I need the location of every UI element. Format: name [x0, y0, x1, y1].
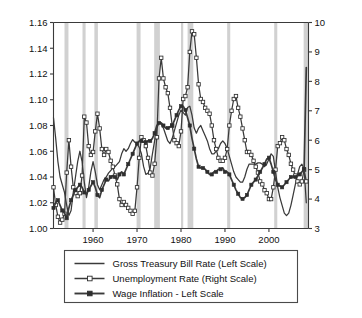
- data-point-marker: [179, 105, 182, 108]
- data-point-marker: [245, 193, 248, 196]
- data-point-marker: [206, 170, 209, 173]
- data-point-marker: [135, 186, 138, 189]
- data-point-marker: [69, 199, 72, 202]
- data-point-marker: [228, 124, 231, 127]
- data-point-marker: [78, 183, 81, 186]
- data-point-marker: [291, 168, 294, 171]
- data-point-marker: [65, 217, 68, 220]
- data-point-marker: [149, 139, 152, 142]
- data-point-marker: [175, 114, 178, 117]
- x-axis-tick-label: 2000: [258, 234, 279, 245]
- data-point-marker: [278, 141, 281, 144]
- data-point-marker: [96, 112, 99, 115]
- data-point-marker: [214, 147, 217, 150]
- data-point-marker: [85, 121, 88, 124]
- data-point-marker: [160, 56, 163, 59]
- data-point-marker: [267, 156, 270, 159]
- data-point-marker: [210, 124, 213, 127]
- data-point-marker: [116, 183, 119, 186]
- data-point-marker: [236, 106, 239, 109]
- data-point-marker: [188, 50, 191, 53]
- data-point-marker: [78, 191, 81, 194]
- data-point-marker: [269, 197, 272, 200]
- data-point-marker: [232, 183, 235, 186]
- right-axis-tick-label: 6: [315, 135, 320, 146]
- data-point-marker: [239, 115, 242, 118]
- data-point-marker: [212, 139, 215, 142]
- x-axis-tick-label: 1990: [214, 234, 235, 245]
- data-point-marker: [56, 199, 59, 202]
- data-point-marker: [234, 94, 237, 97]
- data-point-marker: [157, 121, 160, 124]
- data-point-marker: [193, 147, 196, 150]
- right-axis-tick-label: 9: [315, 46, 320, 57]
- data-point-marker: [107, 150, 110, 153]
- data-point-marker: [192, 33, 195, 36]
- left-axis-tick-label: 1.02: [29, 197, 48, 208]
- data-point-marker: [83, 115, 86, 118]
- data-point-marker: [80, 174, 83, 177]
- data-point-marker: [254, 165, 257, 168]
- data-point-marker: [144, 144, 147, 147]
- legend-item-label: Gross Treasury Bill Rate (Left Scale): [113, 258, 267, 269]
- economic-indicators-chart: 1.001.021.041.061.081.101.121.141.163456…: [0, 0, 362, 318]
- data-point-marker: [250, 153, 253, 156]
- data-point-marker: [96, 193, 99, 196]
- right-axis-tick-label: 3: [315, 223, 320, 234]
- data-point-marker: [56, 215, 59, 218]
- data-point-marker: [138, 156, 141, 159]
- left-axis-tick-label: 1.12: [29, 68, 48, 79]
- data-point-marker: [197, 83, 200, 86]
- data-point-marker: [100, 147, 103, 150]
- data-point-marker: [164, 86, 167, 89]
- right-axis-tick-label: 8: [315, 76, 320, 87]
- data-point-marker: [287, 153, 290, 156]
- data-point-marker: [87, 144, 90, 147]
- data-point-marker: [228, 173, 231, 176]
- data-point-marker: [177, 144, 180, 147]
- data-point-marker: [87, 188, 90, 191]
- left-axis-tick-label: 1.10: [29, 94, 48, 105]
- data-point-marker: [65, 171, 68, 174]
- left-axis-tick-label: 1.08: [29, 120, 48, 131]
- data-point-marker: [186, 86, 189, 89]
- data-point-marker: [303, 168, 306, 171]
- data-point-marker: [197, 165, 200, 168]
- data-point-marker: [294, 175, 297, 178]
- chart-legend: Gross Treasury Bill Rate (Left Scale)Une…: [65, 251, 298, 303]
- data-point-marker: [144, 141, 147, 144]
- data-point-marker: [223, 170, 226, 173]
- left-axis-tick-label: 1.06: [29, 146, 48, 157]
- data-point-marker: [201, 100, 204, 103]
- right-axis-tick-label: 7: [315, 105, 320, 116]
- data-point-marker: [155, 136, 158, 139]
- data-point-marker: [195, 56, 198, 59]
- data-point-marker: [67, 139, 70, 142]
- data-point-marker: [272, 186, 275, 189]
- data-point-marker: [52, 186, 55, 189]
- data-point-marker: [298, 173, 301, 176]
- data-point-marker: [210, 173, 213, 176]
- data-point-marker: [127, 163, 130, 166]
- data-point-marker: [188, 124, 191, 127]
- data-point-marker: [289, 175, 292, 178]
- legend-item-label: Wage Inflation - Left Scale: [113, 288, 224, 299]
- data-point-marker: [241, 197, 244, 200]
- data-point-marker: [74, 188, 77, 191]
- recession-band: [274, 23, 277, 229]
- data-point-marker: [153, 132, 156, 135]
- data-point-marker: [157, 77, 160, 80]
- data-point-marker: [168, 106, 171, 109]
- data-point-marker: [254, 178, 257, 181]
- data-point-marker: [83, 191, 86, 194]
- data-point-marker: [69, 165, 72, 168]
- data-point-marker: [179, 130, 182, 133]
- data-point-marker: [153, 162, 156, 165]
- left-axis-tick-label: 1.04: [29, 171, 48, 182]
- data-point-marker: [283, 139, 286, 142]
- data-point-marker: [98, 127, 101, 130]
- recession-band: [137, 23, 141, 229]
- data-point-marker: [118, 197, 121, 200]
- data-point-marker: [276, 183, 279, 186]
- data-point-marker: [122, 173, 125, 176]
